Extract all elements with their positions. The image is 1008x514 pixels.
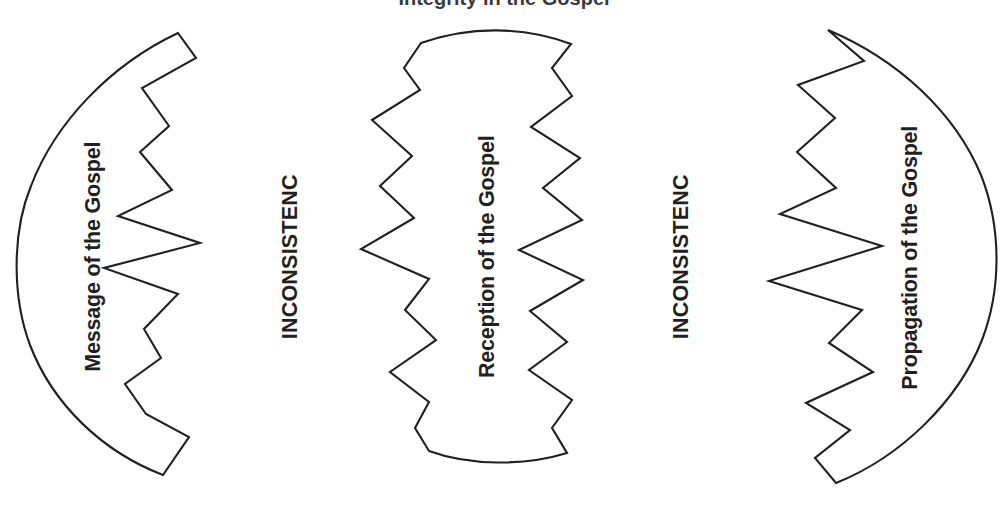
shape-message-label-wrap: Message of the Gospel	[76, 127, 112, 387]
connector-gap-2-label: INCONSISTENC	[670, 175, 692, 340]
shape-propagation-label-wrap: Propagation of the Gospel	[893, 110, 929, 406]
shape-message-label: Message of the Gospel	[83, 142, 105, 372]
shape-reception-label: Reception of the Gospel	[476, 136, 498, 379]
shape-reception-label-wrap: Reception of the Gospel	[469, 122, 505, 392]
shape-propagation-of-the-gospel[interactable]	[769, 30, 997, 483]
connector-gap-2-label-wrap: INCONSISTENC	[663, 154, 699, 360]
diagram-canvas: Integrity in the Gospel Message of the G…	[0, 0, 1008, 514]
connector-gap-1-label-wrap: INCONSISTENC	[272, 154, 308, 360]
connector-gap-1-label: INCONSISTENC	[279, 175, 301, 340]
shape-propagation-label: Propagation of the Gospel	[900, 126, 922, 390]
